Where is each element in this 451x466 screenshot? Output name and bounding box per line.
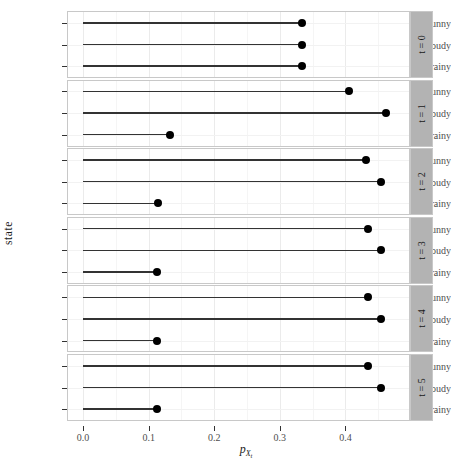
x-tick-mark: [214, 426, 215, 431]
y-tick-mark: [62, 135, 67, 136]
lollipop-segment: [83, 271, 156, 272]
y-tick-mark: [62, 203, 67, 204]
lollipop-segment: [83, 408, 156, 409]
y-tick-mark: [62, 229, 67, 230]
facet-panel: [67, 285, 410, 352]
lollipop-segment: [83, 112, 386, 113]
lollipop-point[interactable]: [364, 225, 372, 233]
y-tick-mark: [62, 388, 67, 389]
facet-strip: t = 2: [410, 148, 433, 215]
y-tick-mark: [62, 160, 67, 161]
panel-inner: [68, 218, 409, 283]
x-tick-label: 0.3: [260, 432, 300, 443]
y-tick-mark: [62, 319, 67, 320]
y-tick-mark: [62, 182, 67, 183]
facet-panel: [67, 217, 410, 284]
lollipop-point[interactable]: [364, 362, 372, 370]
lollipop-facet-chart: state pXt sunnycloudyrainyt = 0sunnyclou…: [0, 0, 451, 466]
y-tick-mark: [62, 297, 67, 298]
panel-inner: [68, 81, 409, 146]
lollipop-point[interactable]: [377, 178, 385, 186]
facet-panel: [67, 11, 410, 78]
lollipop-segment: [83, 250, 381, 251]
facet-strip: t = 3: [410, 217, 433, 284]
lollipop-segment: [83, 91, 349, 92]
facet-strip: t = 1: [410, 80, 433, 147]
lollipop-segment: [83, 65, 302, 66]
x-tick-label: 0.2: [194, 432, 234, 443]
lollipop-point[interactable]: [298, 41, 306, 49]
lollipop-segment: [83, 297, 368, 298]
x-axis-title: pXt: [82, 442, 410, 459]
x-tick-mark: [345, 426, 346, 431]
facet-panel: [67, 80, 410, 147]
facet-strip-label: t = 1: [411, 81, 432, 146]
lollipop-point[interactable]: [377, 384, 385, 392]
lollipop-segment: [83, 387, 381, 388]
lollipop-segment: [83, 159, 366, 160]
lollipop-segment: [83, 340, 156, 341]
y-tick-mark: [62, 23, 67, 24]
y-tick-mark: [62, 272, 67, 273]
y-tick-mark: [62, 409, 67, 410]
lollipop-point[interactable]: [166, 131, 174, 139]
lollipop-segment: [83, 22, 302, 23]
lollipop-point[interactable]: [153, 337, 161, 345]
x-tick-mark: [83, 426, 84, 431]
y-tick-mark: [62, 45, 67, 46]
lollipop-point[interactable]: [298, 62, 306, 70]
facet-strip: t = 4: [410, 285, 433, 352]
y-tick-mark: [62, 250, 67, 251]
y-tick-mark: [62, 366, 67, 367]
x-tick-mark: [280, 426, 281, 431]
y-tick-mark: [62, 113, 67, 114]
facet-strip-label: t = 0: [411, 12, 432, 77]
facet-strip: t = 0: [410, 11, 433, 78]
facet-strip-label: t = 4: [411, 286, 432, 351]
facet-strip: t = 5: [410, 354, 433, 421]
panel-inner: [68, 355, 409, 420]
lollipop-point[interactable]: [153, 268, 161, 276]
lollipop-point[interactable]: [345, 87, 353, 95]
lollipop-point[interactable]: [154, 199, 162, 207]
y-tick-mark: [62, 341, 67, 342]
facet-strip-label: t = 5: [411, 355, 432, 420]
lollipop-segment: [83, 181, 381, 182]
panel-inner: [68, 12, 409, 77]
y-axis-title: state: [2, 0, 16, 466]
facet-panel: [67, 148, 410, 215]
lollipop-segment: [83, 203, 158, 204]
lollipop-point[interactable]: [377, 315, 385, 323]
lollipop-point[interactable]: [364, 293, 372, 301]
lollipop-point[interactable]: [298, 19, 306, 27]
panel-inner: [68, 149, 409, 214]
facet-strip-label: t = 2: [411, 149, 432, 214]
lollipop-segment: [83, 365, 368, 366]
lollipop-point[interactable]: [153, 405, 161, 413]
x-tick-label: 0.1: [129, 432, 169, 443]
lollipop-segment: [83, 228, 368, 229]
lollipop-point[interactable]: [377, 246, 385, 254]
x-tick-mark: [149, 426, 150, 431]
y-tick-mark: [62, 66, 67, 67]
lollipop-point[interactable]: [362, 156, 370, 164]
x-tick-label: 0.0: [63, 432, 103, 443]
lollipop-segment: [83, 318, 381, 319]
facet-strip-label: t = 3: [411, 218, 432, 283]
x-axis-title-sub2: t: [251, 452, 253, 459]
lollipop-segment: [83, 44, 302, 45]
panel-inner: [68, 286, 409, 351]
facet-panel: [67, 354, 410, 421]
y-tick-mark: [62, 91, 67, 92]
lollipop-point[interactable]: [382, 109, 390, 117]
lollipop-segment: [83, 134, 170, 135]
x-tick-label: 0.4: [325, 432, 365, 443]
